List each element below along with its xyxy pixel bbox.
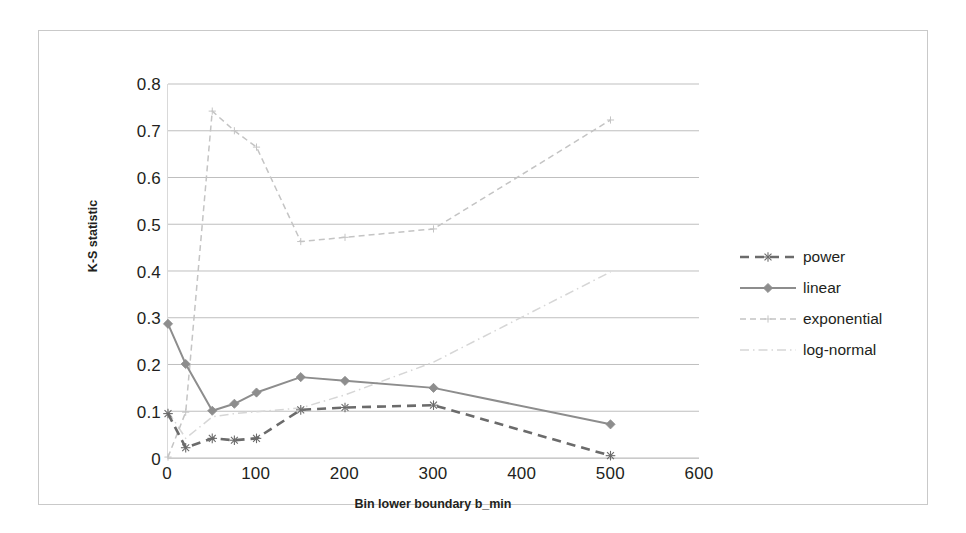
legend-key-exponential-icon <box>739 312 797 326</box>
series-power <box>163 400 615 460</box>
series-line <box>168 405 610 455</box>
y-axis-tick: 0.2 <box>115 357 161 374</box>
data-point-marker <box>763 283 772 292</box>
y-axis-tick: 0.4 <box>115 263 161 280</box>
legend-item-exponential[interactable]: exponential <box>739 303 929 334</box>
x-axis-tick: 400 <box>492 465 552 482</box>
chart-frame: K-S statistic 00.10.20.30.40.50.60.70.8 … <box>38 30 928 505</box>
series-log-normal <box>168 272 610 438</box>
legend-item-log-normal[interactable]: log-normal <box>739 334 929 365</box>
legend-label: linear <box>797 279 841 297</box>
data-point-marker <box>340 376 349 385</box>
y-axis-tick-labels: 00.10.20.30.40.50.60.70.8 <box>105 84 161 459</box>
series-linear <box>163 319 615 429</box>
chart-screenshot: K-S statistic 00.10.20.30.40.50.60.70.8 … <box>0 0 966 533</box>
y-axis-tick: 0.6 <box>115 169 161 186</box>
legend-label: log-normal <box>797 341 876 359</box>
x-axis-tick: 600 <box>669 465 729 482</box>
y-axis-tick: 0.7 <box>115 122 161 139</box>
y-axis-tick: 0.3 <box>115 310 161 327</box>
y-axis-title: K-S statistic <box>86 176 100 296</box>
x-axis-tick: 200 <box>314 465 374 482</box>
x-axis-tick: 300 <box>403 465 463 482</box>
data-point-marker <box>606 420 615 429</box>
legend-item-power[interactable]: power <box>739 241 929 272</box>
x-axis-tick: 100 <box>226 465 286 482</box>
series-line <box>168 324 610 425</box>
data-point-marker <box>208 406 217 415</box>
x-axis-title: Bin lower boundary b_min <box>167 497 699 511</box>
y-axis-tick: 0.5 <box>115 216 161 233</box>
chart-legend: powerlinearexponentiallog-normal <box>739 241 929 365</box>
x-axis-tick-labels: 0100200300400500600 <box>167 465 699 493</box>
x-axis-tick: 500 <box>580 465 640 482</box>
data-point-marker <box>163 319 172 328</box>
plot-canvas <box>168 84 699 458</box>
legend-item-linear[interactable]: linear <box>739 272 929 303</box>
plot-area <box>167 84 699 459</box>
legend-key-log-normal-icon <box>739 343 797 357</box>
legend-label: exponential <box>797 310 882 328</box>
legend-key-power-icon <box>739 250 797 264</box>
series-exponential <box>164 108 614 461</box>
legend-key-linear-icon <box>739 281 797 295</box>
y-axis-tick: 0.1 <box>115 404 161 421</box>
legend-label: power <box>797 248 845 266</box>
data-point-marker <box>230 399 239 408</box>
y-axis-tick: 0.8 <box>115 76 161 93</box>
series-line <box>168 272 610 438</box>
data-point-marker <box>296 373 305 382</box>
x-axis-tick: 0 <box>137 465 197 482</box>
data-point-marker <box>429 383 438 392</box>
data-point-marker <box>252 388 261 397</box>
